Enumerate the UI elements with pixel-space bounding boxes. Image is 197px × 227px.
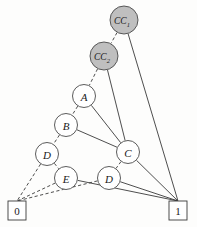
edge-b-to-c-solid: [77, 130, 117, 148]
node-cc1[interactable]: CC1: [110, 6, 138, 34]
node-label-e: E: [62, 173, 70, 185]
node-label-c: C: [124, 147, 132, 159]
node-label-d1: D: [42, 149, 51, 161]
node-d2[interactable]: D: [98, 167, 121, 190]
terminal-layer: 01: [8, 201, 187, 220]
node-e[interactable]: E: [55, 167, 78, 190]
node-cc2[interactable]: CC2: [90, 42, 118, 70]
edge-c-to-d2-dashed: [116, 162, 121, 169]
node-subscript-cc1: 1: [127, 20, 130, 27]
terminal-label-0: 0: [14, 205, 20, 217]
edge-d1-to-e-dashed: [54, 163, 58, 168]
edge-cc1-to-cc2-dashed: [111, 33, 117, 44]
node-d1[interactable]: D: [36, 143, 59, 166]
edge-b-to-d1-dashed: [54, 135, 60, 144]
terminal-0[interactable]: 0: [8, 201, 26, 220]
edge-a-to-c-solid: [91, 105, 120, 142]
edge-cc2-to-a-dashed: [89, 69, 97, 85]
terminal-1[interactable]: 1: [169, 201, 187, 220]
node-label-d2: D: [104, 173, 113, 185]
edge-e-to-t1-solid: [78, 180, 178, 201]
edge-cc1-to-t1-solid: [128, 34, 178, 201]
decision-diagram-canvas: CC1CC2ABDECD 01: [0, 0, 197, 227]
graph-svg: CC1CC2ABDECD 01: [0, 0, 197, 227]
node-layer: CC1CC2ABDECD: [36, 6, 140, 190]
node-label-a: A: [80, 91, 88, 103]
node-b[interactable]: B: [55, 114, 78, 137]
node-a[interactable]: A: [73, 85, 96, 108]
node-c[interactable]: C: [117, 141, 140, 164]
edge-a-to-b-dashed: [72, 106, 77, 115]
node-label-b: B: [63, 120, 70, 132]
edge-e-to-t0-dashed: [17, 183, 55, 201]
terminal-label-1: 1: [175, 205, 181, 217]
